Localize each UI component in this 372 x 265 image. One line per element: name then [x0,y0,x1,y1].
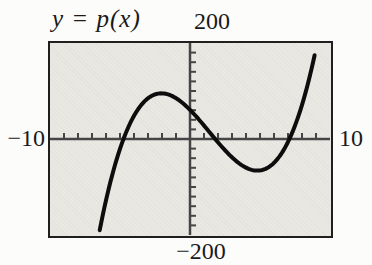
y-max-label: 200 [182,7,242,35]
function-curve [100,55,315,230]
graph-title: y = p(x) [52,5,141,33]
y-min-label: −200 [170,237,232,265]
x-max-label: 10 [339,124,372,152]
plot-area [48,41,333,238]
figure-container: y = p(x) 200 −10 10 −200 [0,0,372,265]
x-min-label: −10 [0,124,45,152]
plot-svg [50,43,330,235]
